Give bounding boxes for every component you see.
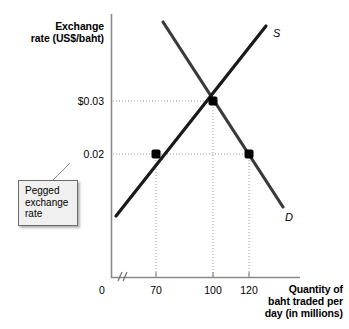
x-axis-ticks — [156, 272, 249, 277]
y-tick-label-lower: 0.02 — [52, 148, 104, 160]
x-axis-title-line3: day (in millions) — [265, 307, 343, 319]
supply-curve-label: S — [273, 27, 280, 39]
callout-line3: rate — [25, 208, 72, 220]
axes — [111, 14, 300, 281]
marker-demand-at-pegged-rate — [245, 150, 254, 159]
axis-break-icon — [118, 272, 127, 281]
callout-line2: exchange — [25, 197, 72, 209]
chart-canvas — [0, 0, 349, 329]
x-axis-title-line1: Quantity of — [289, 283, 343, 295]
y-axis-title-line2: rate (US$/baht) — [31, 32, 104, 44]
demand-curve — [163, 22, 283, 207]
marker-supply-at-pegged-rate — [152, 150, 161, 159]
callout-line1: Pegged — [25, 185, 72, 197]
x-axis-title: Quantity ofbaht traded perday (in millio… — [243, 283, 343, 319]
supply-curve — [116, 26, 266, 216]
guide-lines — [113, 101, 249, 277]
y-axis-title: Exchangerate (US$/baht) — [12, 20, 104, 44]
supply-demand-chart: Exchangerate (US$/baht) $0.03 0.02 0 70 … — [0, 0, 349, 329]
pegged-exchange-rate-callout: Peggedexchangerate — [18, 180, 78, 226]
x-tick-label-70: 70 — [142, 284, 170, 296]
x-axis-title-line2: baht traded per — [268, 295, 343, 307]
origin-label: 0 — [95, 284, 109, 296]
x-tick-label-100: 100 — [199, 284, 227, 296]
y-axis-title-line1: Exchange — [55, 20, 104, 32]
marker-equilibrium — [209, 97, 218, 106]
y-tick-label-upper: $0.03 — [52, 95, 104, 107]
demand-curve-label: D — [285, 211, 293, 223]
